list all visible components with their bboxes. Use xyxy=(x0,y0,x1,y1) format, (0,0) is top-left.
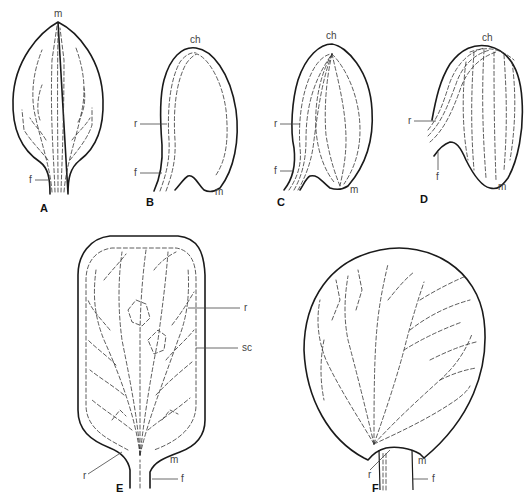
label-m-e: m xyxy=(170,454,178,465)
cotyledon-outline-d xyxy=(432,46,522,189)
inner-margin-e xyxy=(86,248,196,450)
label-f-f: f xyxy=(432,473,435,484)
label-f-d: f xyxy=(436,171,439,182)
panel-d: ch r f m D xyxy=(408,32,522,205)
label-f-e: f xyxy=(181,473,184,484)
label-m-c: m xyxy=(350,184,358,195)
panel-label-c: C xyxy=(277,196,285,208)
label-m-f: m xyxy=(418,455,426,466)
label-sc-e: sc xyxy=(242,342,252,353)
panel-c: ch r f m C xyxy=(274,30,372,208)
cotyledon-outline-c xyxy=(284,44,372,190)
label-ch-c: ch xyxy=(326,30,337,41)
label-r-d: r xyxy=(408,115,412,126)
label-r-f: r xyxy=(368,469,372,480)
veins-d xyxy=(428,48,515,180)
label-r-b: r xyxy=(134,118,138,129)
panel-label-a: A xyxy=(40,202,48,214)
label-r-c: r xyxy=(274,118,278,129)
label-r-e-top: r xyxy=(244,302,248,313)
panel-label-d: D xyxy=(420,193,428,205)
label-r-e-bottom: r xyxy=(83,470,87,481)
label-f-c: f xyxy=(274,165,277,176)
panel-label-f: F xyxy=(372,482,379,494)
leaf-outline-e xyxy=(78,236,205,488)
label-f-b: f xyxy=(134,167,137,178)
label-m-d: m xyxy=(498,181,506,192)
label-f-a: f xyxy=(29,174,32,185)
veins-b xyxy=(160,53,227,191)
panel-b: ch r f m B xyxy=(134,34,237,208)
panel-label-e: E xyxy=(116,482,123,494)
venation-figure: m f A ch r f m B ch r xyxy=(0,0,531,500)
panel-a: m f A xyxy=(13,8,103,214)
panel-e: r sc r m f E xyxy=(78,236,252,494)
label-ch-d: ch xyxy=(482,32,493,43)
label-m-b: m xyxy=(215,186,223,197)
panel-f: r m f F xyxy=(304,248,485,494)
label-m-a: m xyxy=(54,8,62,19)
panel-label-b: B xyxy=(146,196,154,208)
veins-a xyxy=(22,26,92,192)
label-ch-b: ch xyxy=(190,34,201,45)
veins-f xyxy=(318,264,476,490)
veins-e xyxy=(88,250,194,455)
